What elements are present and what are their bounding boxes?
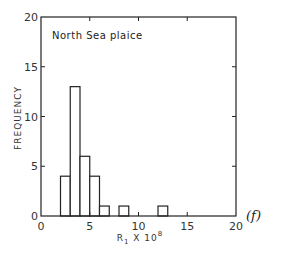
histogram-chart: 0510152005101520 North Sea plaice FREQUE… (0, 0, 286, 259)
x-axis-title-rest: X 10 (129, 233, 157, 243)
histogram-bars (61, 87, 168, 216)
histogram-bar (70, 87, 80, 216)
histogram-bar (90, 176, 100, 216)
chart-title: North Sea plaice (52, 30, 143, 41)
x-tick-label: 15 (180, 220, 194, 233)
y-tick-label: 20 (24, 11, 38, 24)
histogram-bar (80, 156, 90, 216)
tick-labels: 0510152005101520 (24, 11, 243, 233)
histogram-bar (61, 176, 71, 216)
y-tick-label: 15 (24, 61, 38, 74)
y-tick-label: 0 (31, 210, 38, 223)
x-axis-title-base: R (117, 233, 124, 243)
x-tick-label: 5 (86, 220, 93, 233)
x-tick-label: 20 (229, 220, 243, 233)
y-tick-label: 5 (31, 160, 38, 173)
x-tick-label: 0 (38, 220, 45, 233)
histogram-bar (100, 206, 110, 216)
y-tick-label: 10 (24, 111, 38, 124)
x-tick-label: 10 (132, 220, 146, 233)
panel-label: (f) (246, 208, 261, 223)
histogram-bar (158, 206, 168, 216)
y-axis-title: FREQUENCY (13, 86, 23, 150)
x-axis-title: R1 X 108 (117, 230, 164, 246)
histogram-bar (119, 206, 129, 216)
x-axis-title-superscript: 8 (158, 230, 163, 238)
